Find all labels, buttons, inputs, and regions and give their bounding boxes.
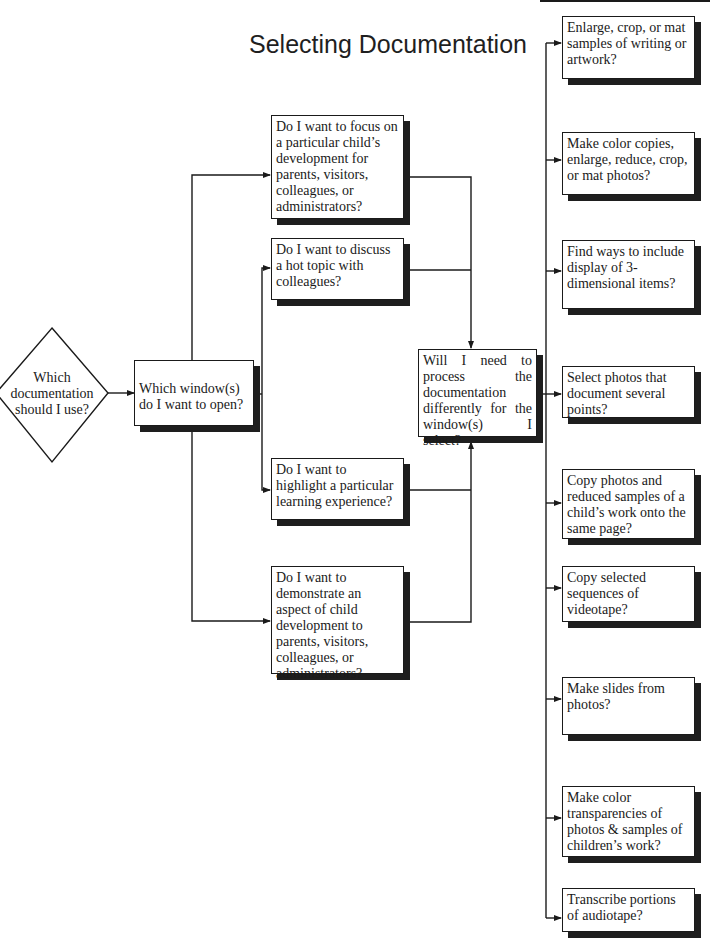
which-window-box: Which window(s) do I want to open? [134, 360, 254, 426]
window-box-learning-experience: Do I want to highlight a particular lear… [271, 458, 404, 520]
start-diamond-label: Which documentation should I use? [2, 370, 102, 418]
which-window-text: Which window(s) do I want to open? [139, 381, 249, 413]
option-box-color-copies: Make color copies, enlarge, reduce, crop… [562, 132, 695, 195]
window-box-hot-topic: Do I want to discuss a hot topic with co… [271, 238, 404, 300]
window-box-focus-child: Do I want to focus on a particular child… [271, 115, 404, 219]
option-box-transparencies: Make color transparencies of photos & sa… [562, 786, 695, 857]
option-box-copy-photos-samples: Copy photos and reduced samples of a chi… [562, 469, 695, 539]
process-box: Will I need to process the documentation… [418, 349, 537, 437]
option-box-audiotape: Transcribe portions of audiotape? [562, 888, 695, 932]
window-box-child-development: Do I want to demonstrate an aspect of ch… [271, 566, 404, 674]
option-box-enlarge-writing: Enlarge, crop, or mat samples of writing… [562, 16, 695, 79]
option-box-3d-items: Find ways to include display of 3-dimens… [562, 240, 695, 309]
option-box-videotape: Copy selected sequences of videotape? [562, 566, 695, 622]
option-box-select-photos: Select photos that document several poin… [562, 366, 695, 418]
option-box-slides: Make slides from photos? [562, 677, 695, 735]
